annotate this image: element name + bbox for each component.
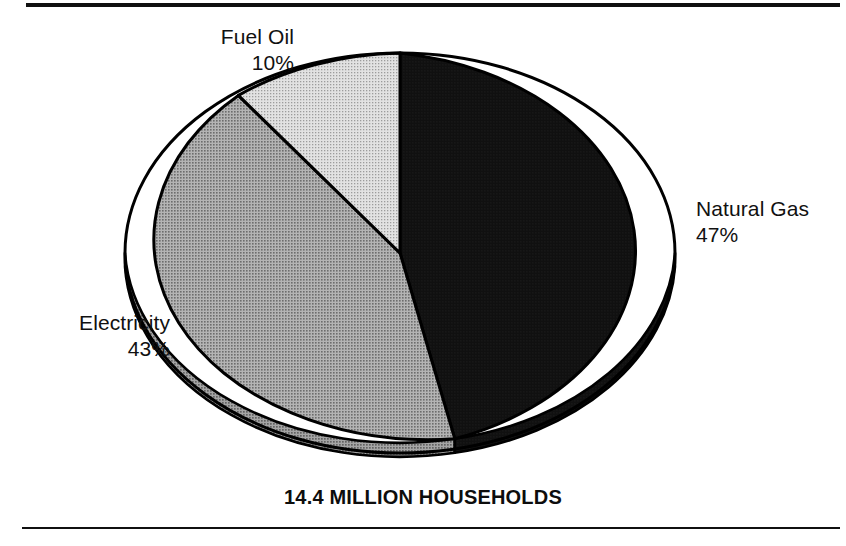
slice-label-fuel-oil-percent: 10% [38,50,294,76]
chart-plot-area: Fuel Oil 10% Electricity 43% Natural Gas… [0,0,846,546]
slice-label-fuel-oil: Fuel Oil 10% [38,24,294,76]
bottom-divider-rule [22,527,840,529]
slice-label-electricity: Electricity 43% [0,310,170,362]
pie-chart-graphic [0,0,846,546]
slice-label-natural-gas-percent: 47% [696,222,809,248]
chart-caption: 14.4 MILLION HOUSEHOLDS [0,486,846,509]
slice-label-natural-gas: Natural Gas 47% [696,196,809,248]
slice-label-electricity-name: Electricity [79,311,170,334]
slice-label-natural-gas-name: Natural Gas [696,197,809,220]
slice-label-fuel-oil-name: Fuel Oil [221,25,294,48]
slice-label-electricity-percent: 43% [0,336,170,362]
pie-chart-figure: Fuel Oil 10% Electricity 43% Natural Gas… [0,0,846,546]
